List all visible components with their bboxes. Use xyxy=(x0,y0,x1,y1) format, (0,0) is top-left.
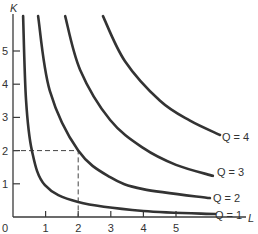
y-tick-label: 4 xyxy=(2,78,8,90)
y-tick-label: 5 xyxy=(2,45,8,57)
isoquant-q4 xyxy=(103,16,220,135)
label-q1: Q = 1 xyxy=(215,209,242,221)
x-axis-label: L xyxy=(248,212,254,224)
x-tick-label: 4 xyxy=(140,222,146,234)
label-q4: Q = 4 xyxy=(222,131,249,143)
axis-ticks xyxy=(13,51,176,217)
label-q3: Q = 3 xyxy=(217,166,244,178)
x-tick-label: 5 xyxy=(173,222,179,234)
origin-label: 0 xyxy=(2,222,8,234)
y-tick-label: 2 xyxy=(2,145,8,157)
y-axis-label: K xyxy=(10,2,18,14)
isoquant-q1 xyxy=(23,16,215,214)
x-tick-label: 3 xyxy=(108,222,114,234)
isoquant-q2 xyxy=(38,16,210,198)
isoquant-q3 xyxy=(65,16,213,176)
y-tick-label: 3 xyxy=(2,111,8,123)
isoquant-curves xyxy=(23,16,220,214)
label-q2: Q = 2 xyxy=(213,192,240,204)
y-tick-label: 1 xyxy=(2,178,8,190)
x-tick-label: 2 xyxy=(75,222,81,234)
x-tick-label: 1 xyxy=(43,222,49,234)
dashed-guide-2-2 xyxy=(13,151,78,217)
isoquant-chart: K L 0 1234512345 Q = 1 Q = 2 Q = 3 Q = 4 xyxy=(0,0,258,234)
